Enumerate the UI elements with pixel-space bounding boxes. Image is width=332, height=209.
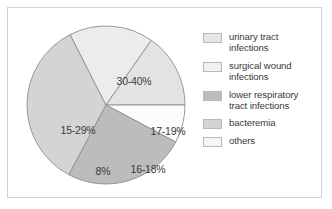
legend-item-label: urinary tract infections bbox=[229, 31, 278, 54]
chart-legend: urinary tract infectionssurgical wound i… bbox=[203, 31, 319, 153]
legend-item[interactable]: urinary tract infections bbox=[203, 31, 319, 54]
legend-item-label: lower respiratory tract infections bbox=[229, 89, 298, 112]
legend-swatch-icon bbox=[203, 33, 222, 43]
legend-swatch-icon bbox=[203, 62, 222, 72]
legend-swatch-icon bbox=[203, 137, 222, 147]
legend-swatch-icon bbox=[203, 119, 222, 129]
legend-item[interactable]: surgical wound infections bbox=[203, 60, 319, 83]
legend-item[interactable]: bacteremia bbox=[203, 117, 319, 129]
legend-item-label: bacteremia bbox=[229, 117, 275, 128]
legend-swatch-icon bbox=[203, 91, 222, 101]
pie-slice-label: 16-18% bbox=[131, 163, 166, 175]
legend-item[interactable]: lower respiratory tract infections bbox=[203, 89, 319, 112]
pie-slice-label: 15-29% bbox=[61, 124, 96, 136]
pie-slice-label: 8% bbox=[96, 165, 111, 177]
legend-item[interactable]: others bbox=[203, 135, 319, 147]
pie-slice-label: 17-19% bbox=[151, 125, 186, 137]
pie-chart-svg: 30-40%17-19%16-18%8%15-29% bbox=[22, 22, 190, 190]
pie-slice-label: 30-40% bbox=[117, 75, 152, 87]
legend-item-label: others bbox=[229, 135, 255, 146]
pie-chart: 30-40%17-19%16-18%8%15-29% bbox=[22, 22, 190, 190]
pie-chart-figure: 30-40%17-19%16-18%8%15-29% urinary tract… bbox=[0, 0, 332, 209]
legend-item-label: surgical wound infections bbox=[229, 60, 292, 83]
pie-slice-group bbox=[27, 26, 185, 184]
